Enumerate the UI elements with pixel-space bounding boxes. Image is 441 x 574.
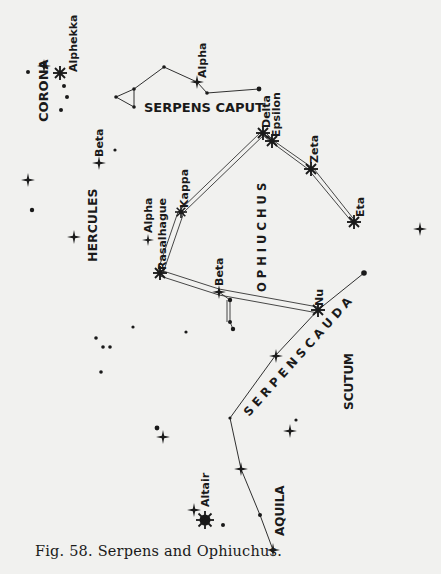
label-alphekka: Alphekka — [67, 14, 80, 72]
label-hercules-alpha: Alpha — [142, 198, 155, 233]
label-kappa: Kappa — [178, 169, 191, 208]
label-caput-alpha: Alpha — [196, 43, 209, 78]
label-ophiuchus: O P H I U C H U S — [255, 183, 269, 292]
label-altair: Altair — [199, 472, 212, 507]
label-serpens-cauda: S E R P E N S C A U D A — [241, 294, 355, 419]
label-scutum: SCUTUM — [342, 353, 356, 410]
altair-star-icon — [196, 511, 214, 529]
figure-caption: Fig. 58. Serpens and Ophiuchus. — [35, 543, 282, 559]
label-eta: Eta — [354, 197, 367, 217]
label-oph-beta: Beta — [213, 257, 226, 286]
label-epsilon: Epsilon — [270, 92, 283, 137]
label-serpens-caput: SERPENS CAPUT — [144, 100, 264, 115]
label-nu: Nu — [313, 289, 326, 306]
star-chart: CORONA SERPENS CAPUT HERCULES O P H I U … — [0, 0, 441, 574]
label-hercules-beta: Beta — [93, 128, 106, 157]
label-corona: CORONA — [36, 59, 51, 122]
label-hercules: HERCULES — [85, 189, 100, 262]
label-zeta: Zeta — [308, 135, 321, 163]
label-rasalhague: Rasalhague — [156, 198, 169, 270]
bright-stars — [21, 59, 427, 557]
label-aquila: AQUILA — [273, 485, 287, 536]
